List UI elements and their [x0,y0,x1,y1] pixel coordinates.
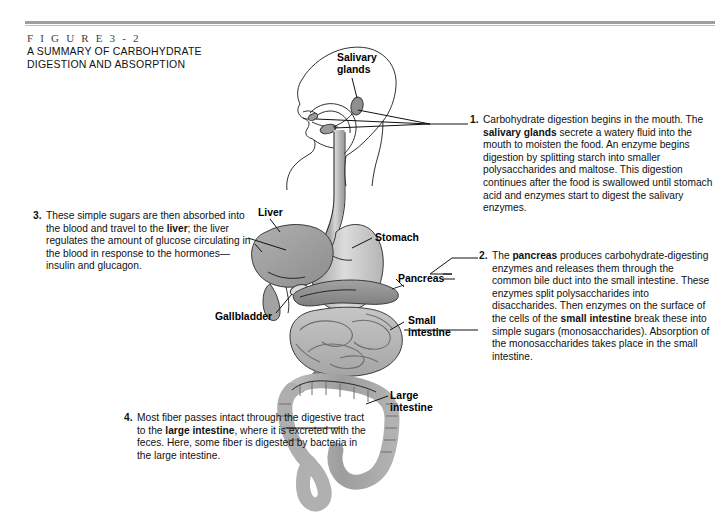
label-liver: Liver [258,207,283,219]
figure-page: F I G U R E 3 - 2 A SUMMARY OF CARBOHYDR… [0,0,725,525]
label-large-intestine-line1: Large [390,390,433,402]
label-salivary-glands: Salivary glands [337,52,377,77]
note-4-text: Most fiber passes intact through the dig… [137,412,369,462]
note-4-number: 4. [124,412,137,462]
label-small-intestine: Small intestine [408,315,451,340]
note-2-number: 2. [479,250,492,363]
label-small-intestine-line2: intestine [408,327,451,339]
label-stomach: Stomach [375,232,419,244]
label-salivary-glands-line2: glands [337,64,377,76]
note-1-text: Carbohydrate digestion begins in the mou… [483,114,718,215]
label-pancreas: Pancreas [398,273,444,285]
label-large-intestine-line2: intestine [390,402,433,414]
note-3-text: These simple sugars are then absorbed in… [46,210,258,273]
note-1: 1. Carbohydrate digestion begins in the … [470,114,718,215]
note-3-number: 3. [33,210,46,273]
note-2: 2. The pancreas produces carbohydrate-di… [479,250,715,363]
label-small-intestine-line1: Small [408,315,451,327]
note-4: 4. Most fiber passes intact through the … [124,412,369,462]
note-2-text: The pancreas produces carbohydrate-diges… [492,250,715,363]
label-large-intestine: Large intestine [390,390,433,415]
liver-art [252,225,334,321]
label-gallbladder: Gallbladder [215,311,272,323]
note-3: 3. These simple sugars are then absorbed… [33,210,258,273]
label-salivary-glands-line1: Salivary [337,52,377,64]
note-1-number: 1. [470,114,483,215]
